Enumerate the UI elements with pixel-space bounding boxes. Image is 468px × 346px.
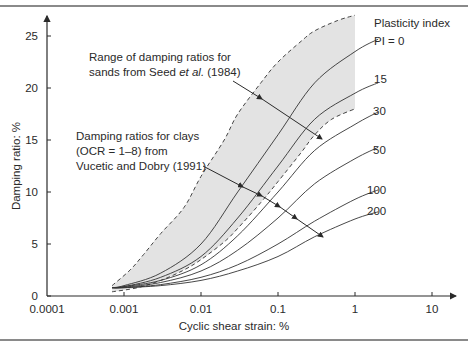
y-tick-label: 0: [32, 290, 38, 302]
x-tick-label: 0.0001: [29, 303, 64, 315]
x-tick-label: 0.1: [270, 303, 286, 315]
pi-label-50: 50: [373, 144, 386, 156]
damping-ratio-chart: 0510152025 0.00010.0010.010.1110 Cyclic …: [0, 0, 468, 346]
y-tick-label: 15: [25, 134, 38, 146]
sands-annotation-line1: Range of damping ratios for: [89, 51, 231, 63]
pi-label-15: 15: [374, 73, 387, 85]
clays-annotation-line3: Vucetic and Dobry (1991): [76, 160, 206, 172]
x-tick-label: 10: [426, 303, 439, 315]
x-tick-label: 0.01: [190, 303, 212, 315]
y-axis-label: Damping ratio: %: [10, 122, 22, 210]
pi-label-0: PI = 0: [374, 35, 404, 47]
x-tick-label: 1: [352, 303, 358, 315]
sands-annotation-line2: sands from Seed et al. (1984): [89, 66, 241, 78]
y-tick-label: 5: [32, 238, 38, 250]
clays-annotation-line2: (OCR = 1–8) from: [76, 145, 168, 157]
pi-label-30: 30: [373, 105, 386, 117]
y-tick-label: 20: [25, 82, 38, 94]
pi-label-100: 100: [367, 184, 386, 196]
clays-annotation-line1: Damping ratios for clays: [76, 130, 200, 142]
y-tick-label: 10: [25, 186, 38, 198]
y-tick-label: 25: [25, 30, 38, 42]
x-tick-label: 0.001: [110, 303, 139, 315]
legend-title: Plasticity index: [374, 17, 450, 29]
clays-arrow-5: [297, 219, 323, 237]
pi-label-200: 200: [367, 205, 386, 217]
x-axis-label: Cyclic shear strain: %: [179, 320, 290, 332]
clays-arrow-3: [262, 196, 280, 207]
